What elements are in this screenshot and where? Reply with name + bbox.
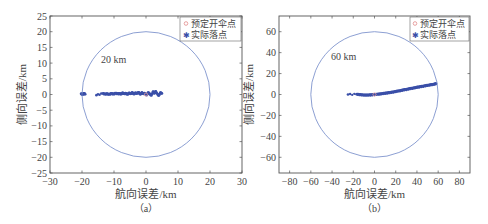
x-axis-label-a: 航向误差/km xyxy=(115,187,177,200)
x-tick-label: −20 xyxy=(74,176,90,187)
x-tick-label: 10 xyxy=(173,176,183,187)
panel-label-a: （a） xyxy=(134,203,158,214)
y-tick-label: −15 xyxy=(31,136,47,147)
y-tick-label: 60 xyxy=(266,26,276,37)
legend-label-actual: 实际落点 xyxy=(420,29,456,40)
legend-marker-actual-icon: ✱ xyxy=(412,31,419,40)
y-tick-label: −5 xyxy=(36,105,47,116)
x-tick-label: 20 xyxy=(391,176,401,187)
legend-label-actual: 实际落点 xyxy=(191,29,227,40)
y-tick-label: −60 xyxy=(260,152,276,163)
y-tick-label: −20 xyxy=(31,152,47,163)
scatter-points-a xyxy=(80,90,164,97)
x-tick-label: −60 xyxy=(303,176,319,187)
y-tick-label: 25 xyxy=(37,11,47,22)
x-tick-label: 20 xyxy=(205,176,215,187)
circle-annotation-a: 20 km xyxy=(101,54,127,65)
x-tick-label: 0 xyxy=(372,176,377,187)
actual-landing-point xyxy=(353,93,355,95)
x-axis-label-b: 航向误差/km xyxy=(344,187,406,200)
x-tick-label: −80 xyxy=(282,176,298,187)
x-tick-label: −20 xyxy=(345,176,361,187)
x-axis-ticks-b: −80−60−40−20020406080 xyxy=(282,16,465,187)
legend-a: 预定开伞点 ✱ 实际落点 xyxy=(180,17,241,41)
panel-a: −30−20−100102030 2520151050−5−10−15−20−2… xyxy=(15,11,247,215)
legend-label-planned: 预定开伞点 xyxy=(420,18,465,29)
y-tick-label: 5 xyxy=(42,73,47,84)
y-tick-label: −40 xyxy=(260,131,276,142)
actual-landing-point xyxy=(351,94,353,96)
y-tick-label: −10 xyxy=(31,120,47,131)
actual-landing-point xyxy=(347,93,350,96)
y-tick-label: 40 xyxy=(266,47,276,58)
y-tick-label: −20 xyxy=(260,110,276,121)
x-tick-label: 0 xyxy=(144,176,149,187)
y-tick-label: 15 xyxy=(37,42,47,53)
x-tick-label: −40 xyxy=(324,176,340,187)
y-axis-label-b: 侧向误差/km xyxy=(242,64,255,126)
legend-b: 预定开伞点 ✱ 实际落点 xyxy=(410,17,469,41)
x-tick-label: 30 xyxy=(237,176,247,187)
scatter-points-b xyxy=(347,82,438,97)
circle-annotation-b: 60 km xyxy=(331,51,357,62)
y-axis-label-a: 侧向误差/km xyxy=(15,64,28,126)
actual-landing-point xyxy=(349,93,351,95)
x-tick-label: 40 xyxy=(412,176,422,187)
panel-b: −80−60−40−20020406080 6040200−20−40−60 航… xyxy=(242,16,470,214)
y-tick-label: −25 xyxy=(31,168,47,179)
legend-label-planned: 预定开伞点 xyxy=(191,18,236,29)
x-axis-ticks-a: −30−20−100102030 xyxy=(42,16,247,187)
y-tick-label: 20 xyxy=(266,68,276,79)
figure: −30−20−100102030 2520151050−5−10−15−20−2… xyxy=(0,0,488,224)
y-tick-label: 0 xyxy=(42,89,47,100)
actual-landing-point xyxy=(161,92,164,95)
x-tick-label: 60 xyxy=(433,176,443,187)
y-tick-label: 0 xyxy=(271,89,276,100)
actual-landing-point xyxy=(84,93,87,96)
panel-label-b: （b） xyxy=(362,203,387,214)
x-tick-label: 80 xyxy=(454,176,464,187)
y-tick-label: 10 xyxy=(37,58,47,69)
x-tick-label: −10 xyxy=(106,176,122,187)
y-tick-label: 20 xyxy=(37,26,47,37)
legend-marker-actual-icon: ✱ xyxy=(183,31,190,40)
